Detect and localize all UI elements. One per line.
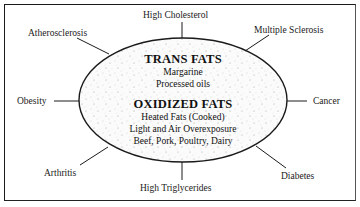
label-high-cholesterol: High Cholesterol [143, 11, 208, 21]
label-arthritis: Arthritis [44, 169, 76, 179]
item-processed-oils: Processed oils [80, 80, 286, 90]
item-margarine: Margarine [80, 68, 286, 78]
item-beef-pork: Beef, Pork, Poultry, Dairy [80, 137, 286, 147]
connector-bottom-left [80, 147, 108, 165]
label-diabetes: Diabetes [281, 172, 314, 182]
heading-oxidized-fats: OXIDIZED FATS [80, 98, 286, 111]
label-cancer: Cancer [313, 97, 340, 107]
item-heated-fats: Heated Fats (Cooked) [80, 113, 286, 123]
label-obesity: Obesity [17, 97, 47, 107]
connector-bottom-right [256, 146, 286, 168]
item-light-air: Light and Air Overexposure [80, 125, 286, 135]
heading-trans-fats: TRANS FATS [80, 53, 286, 66]
connector-top-right [245, 35, 269, 51]
connector-top-left [77, 38, 109, 54]
label-atherosclerosis: Atherosclerosis [28, 29, 87, 39]
label-multiple-sclerosis: Multiple Sclerosis [254, 26, 323, 36]
label-high-triglycerides: High Triglycerides [140, 184, 212, 194]
